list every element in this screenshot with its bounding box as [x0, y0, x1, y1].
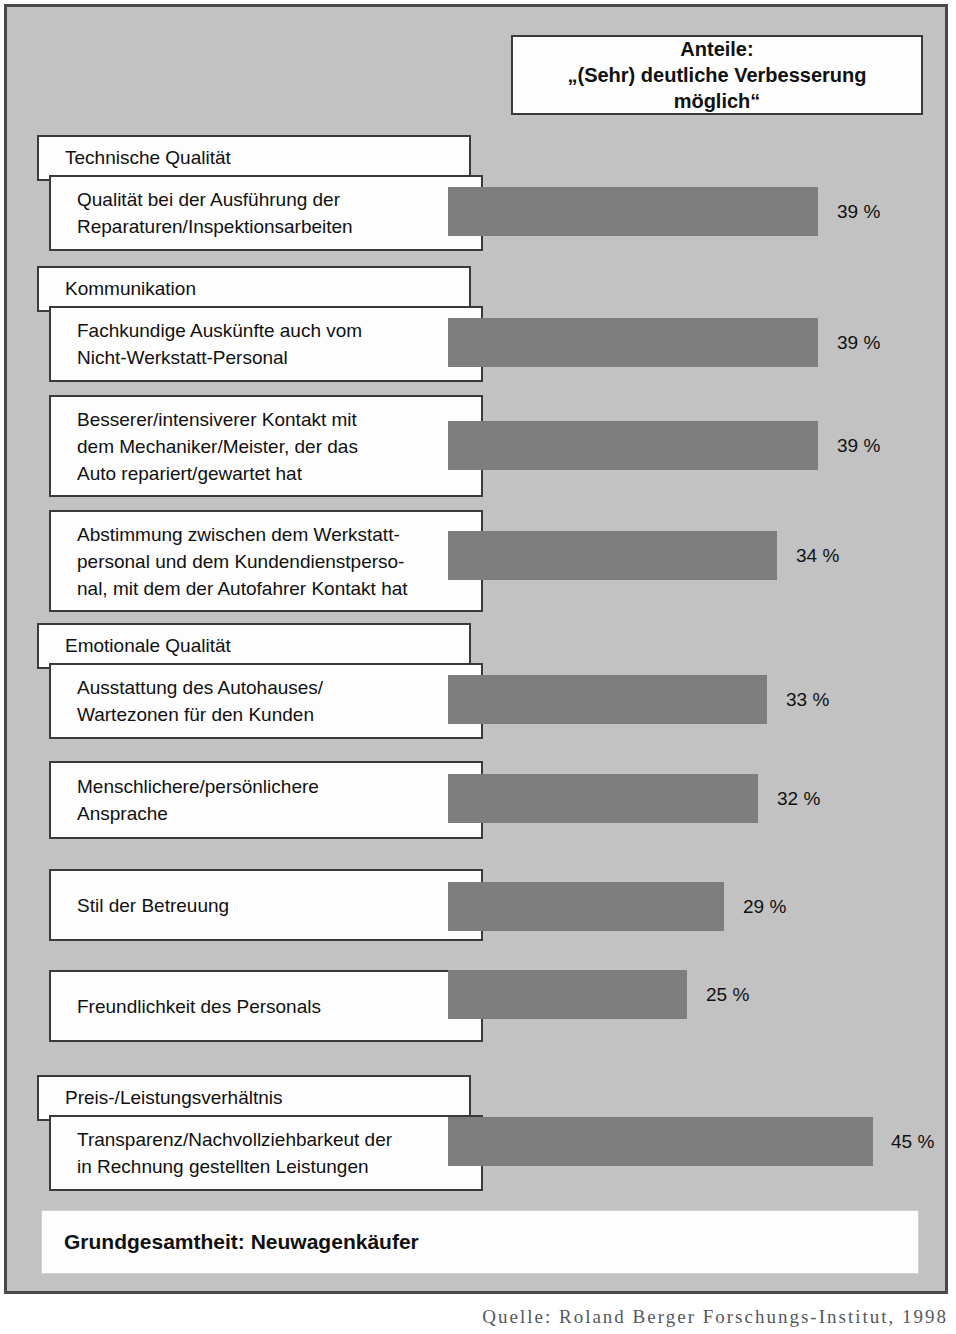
item-label-line-1: Menschlichere/persönlichere	[77, 773, 319, 800]
item-box-4: Abstimmung zwischen dem Werkstatt- perso…	[49, 510, 483, 612]
item-label-line-2: in Rechnung gestellten Leistungen	[77, 1153, 392, 1180]
chart-title-box: Anteile: „(Sehr) deutliche Verbesserung …	[511, 35, 923, 115]
item-box-2: Fachkundige Auskünfte auch vom Nicht-Wer…	[49, 306, 483, 382]
bar-value-7: 29 %	[743, 896, 786, 918]
item-label-line-1: Ausstattung des Autohauses/	[77, 674, 323, 701]
item-label-line-1: Qualität bei der Ausführung der	[77, 186, 353, 213]
chart-title: Anteile: „(Sehr) deutliche Verbesserung …	[568, 36, 867, 114]
item-label-line-2: Wartezonen für den Kunden	[77, 701, 323, 728]
item-label-line-2: personal und dem Kundendienstperso-	[77, 548, 408, 575]
bar-8	[448, 970, 687, 1019]
bar-value-8: 25 %	[706, 984, 749, 1006]
item-box-5: Ausstattung des Autohauses/ Wartezonen f…	[49, 663, 483, 739]
item-box-9: Transparenz/Nachvollziehbarkeut der in R…	[49, 1115, 483, 1191]
item-label-line-3: nal, mit dem der Autofahrer Kontakt hat	[77, 575, 408, 602]
category-label: Technische Qualität	[65, 147, 231, 169]
chart-title-line-3: möglich“	[568, 88, 867, 114]
item-box-1: Qualität bei der Ausführung der Reparatu…	[49, 175, 483, 251]
item-box-7: Stil der Betreuung	[49, 869, 483, 941]
bar-5	[448, 675, 767, 724]
source-line: Quelle: Roland Berger Forschungs-Institu…	[0, 1306, 956, 1334]
item-label-line-3: Auto repariert/gewartet hat	[77, 460, 358, 487]
bar-value-5: 33 %	[786, 689, 829, 711]
item-label-line-1: Abstimmung zwischen dem Werkstatt-	[77, 521, 408, 548]
category-label: Kommunikation	[65, 278, 196, 300]
item-label-line-2: Ansprache	[77, 800, 319, 827]
category-label: Emotionale Qualität	[65, 635, 231, 657]
item-box-6: Menschlichere/persönlichere Ansprache	[49, 761, 483, 839]
item-box-8: Freundlichkeit des Personals	[49, 970, 483, 1042]
chart-title-line-1: Anteile:	[568, 36, 867, 62]
bar-7	[448, 882, 724, 931]
chart-title-line-2: „(Sehr) deutliche Verbesserung	[568, 62, 867, 88]
item-label-line-1: Transparenz/Nachvollziehbarkeut der	[77, 1126, 392, 1153]
bar-value-2: 39 %	[837, 332, 880, 354]
item-label-line-1: Freundlichkeit des Personals	[77, 993, 321, 1020]
bar-4	[448, 531, 777, 580]
item-box-3: Besserer/intensiverer Kontakt mit dem Me…	[49, 395, 483, 497]
bar-value-6: 32 %	[777, 788, 820, 810]
item-label-line-2: Reparaturen/Inspektionsarbeiten	[77, 213, 353, 240]
item-label-line-1: Stil der Betreuung	[77, 892, 229, 919]
item-label-line-1: Besserer/intensiverer Kontakt mit	[77, 406, 358, 433]
footer-basis-label: Grundgesamtheit: Neuwagenkäufer	[64, 1230, 419, 1254]
chart-frame: Anteile: „(Sehr) deutliche Verbesserung …	[4, 4, 948, 1294]
bar-6	[448, 774, 758, 823]
item-label-line-2: Nicht-Werkstatt-Personal	[77, 344, 362, 371]
item-label-line-2: dem Mechaniker/Meister, der das	[77, 433, 358, 460]
bar-1	[448, 187, 818, 236]
footer-basis-box: Grundgesamtheit: Neuwagenkäufer	[41, 1210, 919, 1274]
item-label-line-1: Fachkundige Auskünfte auch vom	[77, 317, 362, 344]
bar-value-1: 39 %	[837, 201, 880, 223]
bar-9	[448, 1117, 873, 1166]
bar-2	[448, 318, 818, 367]
bar-3	[448, 421, 818, 470]
bar-value-4: 34 %	[796, 545, 839, 567]
bar-value-9: 45 %	[891, 1131, 934, 1153]
bar-value-3: 39 %	[837, 435, 880, 457]
category-label: Preis-/Leistungsverhältnis	[65, 1087, 283, 1109]
